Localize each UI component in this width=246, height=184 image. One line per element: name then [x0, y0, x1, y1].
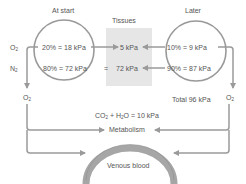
co2-h2o-label: CO2 + H2O = 10 kPa	[95, 112, 159, 121]
gas-label-n2: N2	[10, 65, 18, 74]
heading-tissues: Tissues	[112, 17, 136, 24]
at-start-o2: 20% = 18 kPa	[42, 44, 86, 51]
heading-later: Later	[185, 7, 201, 14]
bottom-left-o2: O2	[23, 94, 31, 103]
later-o2: 10% = 9 kPa	[167, 44, 207, 51]
heading-at-start: At start	[52, 7, 74, 14]
later-circle	[166, 21, 226, 81]
tissues-box	[106, 28, 152, 86]
tissues-equals: =	[104, 65, 108, 72]
at-start-n2: 80% = 72 kPa	[43, 65, 87, 72]
diagram-graphics	[0, 0, 246, 184]
later-total: Total 96 kPa	[172, 96, 211, 103]
tissues-o2: 5 kPa	[120, 44, 138, 51]
venous-blood-label: Venous blood	[107, 162, 149, 169]
gas-label-o2: O2	[10, 44, 18, 53]
bottom-right-o2: O2	[226, 94, 234, 103]
later-n2: 90% = 87 kPa	[167, 65, 211, 72]
metabolism-label: Metabolism	[109, 126, 145, 133]
tissues-n2: 72 kPa	[116, 65, 138, 72]
